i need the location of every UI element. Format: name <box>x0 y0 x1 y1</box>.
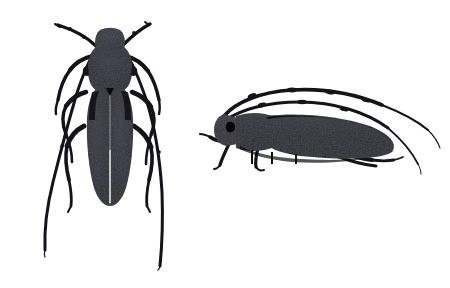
lateral-antenna-lower-joint-2 <box>297 100 307 104</box>
dorsal-leg-front-right-tarsus <box>159 100 160 114</box>
dorsal-antenna-left-joint-1 <box>68 27 72 31</box>
dorsal-antenna-left-joint-4 <box>60 144 64 148</box>
lateral-eye <box>226 122 235 133</box>
dorsal-antenna-right-joint-3 <box>157 150 161 154</box>
dorsal-pronotum <box>88 46 132 90</box>
dorsal-antenna-left-end <box>44 250 45 257</box>
specimen-plate <box>0 0 450 288</box>
dorsal-antenna-right-joint-1 <box>132 31 136 35</box>
lateral-antenna-upper-joint-2 <box>287 88 297 93</box>
specimen-plate-canvas <box>0 0 450 288</box>
lateral-leg-hind-tibia <box>372 160 394 161</box>
dorsal-antenna-left-joint-2 <box>82 35 86 39</box>
